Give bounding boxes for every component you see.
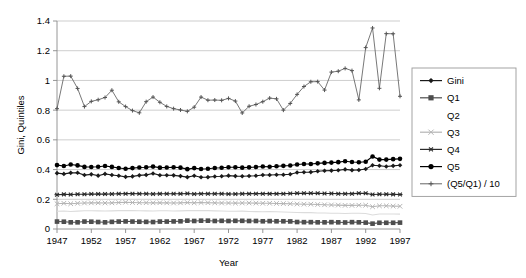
data-point-marker	[336, 220, 341, 225]
data-point-marker	[62, 172, 67, 177]
data-point-marker	[212, 174, 217, 179]
legend: GiniQ1Q2Q3Q4Q5(Q5/Q1) / 10	[412, 68, 516, 196]
data-point-marker	[103, 172, 108, 177]
data-point-marker	[151, 164, 156, 169]
data-point-marker	[274, 219, 279, 224]
data-point-marker	[123, 175, 128, 180]
data-point-marker	[398, 163, 403, 168]
x-tick-label: 1967	[184, 235, 205, 246]
legend-item-q5-q1-10[interactable]: (Q5/Q1) / 10	[413, 175, 515, 192]
x-axis-title: Year	[219, 257, 238, 268]
data-point-marker	[116, 219, 121, 224]
legend-item-label: Q4	[447, 144, 460, 155]
data-point-marker	[68, 162, 73, 167]
data-point-marker	[219, 174, 224, 179]
legend-item-q3[interactable]: Q3	[413, 124, 515, 141]
data-point-marker	[377, 163, 382, 168]
legend-item-label: Q1	[447, 92, 460, 103]
data-point-marker	[144, 173, 149, 178]
data-point-marker	[254, 219, 259, 224]
data-point-marker	[110, 220, 115, 225]
data-point-marker	[377, 220, 382, 225]
data-point-marker	[254, 174, 259, 179]
series-q3	[55, 200, 403, 209]
data-point-marker	[329, 160, 334, 165]
chart-figure: 00.20.40.60.811.21.4 1947195219571962196…	[0, 0, 526, 278]
data-point-marker	[233, 165, 238, 170]
data-point-marker	[206, 166, 211, 171]
data-point-marker	[123, 166, 128, 171]
data-point-marker	[357, 220, 362, 225]
data-point-marker	[144, 220, 149, 225]
data-point-marker	[315, 220, 320, 225]
data-point-marker	[103, 220, 108, 225]
series-q5-q1-10	[55, 26, 402, 115]
data-point-marker	[267, 219, 272, 224]
x-tick-label: 1972	[218, 235, 239, 246]
data-point-marker	[391, 220, 396, 225]
data-point-marker	[329, 168, 334, 173]
legend-item-gini[interactable]: Gini	[413, 72, 515, 89]
data-point-marker	[55, 163, 60, 168]
series-q5	[55, 154, 403, 171]
data-point-marker	[226, 173, 231, 178]
data-point-marker	[350, 160, 355, 165]
series-q1	[55, 218, 403, 226]
data-point-marker	[123, 219, 128, 224]
data-point-marker	[295, 162, 300, 167]
data-point-marker	[267, 173, 272, 178]
x-tick-labels: 1947195219571962196719721977198219871992…	[46, 235, 410, 246]
data-point-marker	[212, 219, 217, 224]
data-point-marker	[370, 163, 375, 168]
data-point-marker	[322, 161, 327, 166]
data-point-marker	[75, 163, 80, 168]
data-point-marker	[384, 220, 389, 225]
y-tick-label: 0.4	[37, 164, 50, 175]
y-tick-labels: 00.20.40.60.811.21.4	[37, 15, 50, 234]
y-tick-label: 1.4	[37, 15, 50, 26]
data-point-marker	[158, 173, 163, 178]
series-line	[57, 210, 400, 215]
data-point-marker	[384, 157, 389, 162]
data-point-marker	[199, 218, 204, 223]
data-point-marker	[322, 220, 327, 225]
data-point-marker	[206, 175, 211, 180]
legend-item-q5[interactable]: Q5	[413, 158, 515, 175]
x-tick-label: 1997	[389, 235, 410, 246]
data-point-marker	[350, 168, 355, 173]
data-point-marker	[336, 168, 341, 173]
data-point-marker	[158, 165, 163, 170]
legend-item-label: Q3	[447, 127, 460, 138]
legend-item-label: Gini	[447, 75, 464, 86]
data-point-marker	[192, 166, 197, 171]
data-point-marker	[164, 219, 169, 224]
legend-item-q2[interactable]: Q2	[413, 106, 515, 123]
x-tick-label: 1962	[149, 235, 170, 246]
legend-item-q1[interactable]: Q1	[413, 89, 515, 106]
data-point-marker	[391, 164, 396, 169]
data-point-marker	[343, 220, 348, 225]
data-point-marker	[116, 166, 121, 171]
legend-item-q4[interactable]: Q4	[413, 141, 515, 158]
data-point-marker	[343, 159, 348, 164]
data-point-marker	[226, 219, 231, 224]
data-point-marker	[158, 219, 163, 224]
legend-item-hit[interactable]	[413, 106, 515, 123]
data-point-marker	[302, 220, 307, 225]
data-point-marker	[267, 164, 272, 169]
data-point-marker	[103, 164, 108, 169]
data-point-marker	[428, 95, 433, 100]
data-point-marker	[178, 219, 183, 224]
data-point-marker	[212, 166, 217, 171]
data-point-marker	[336, 160, 341, 165]
data-point-marker	[96, 220, 101, 225]
data-point-marker	[226, 165, 231, 170]
data-point-marker	[89, 219, 94, 224]
legend-item-label: (Q5/Q1) / 10	[447, 178, 500, 189]
data-point-marker	[55, 171, 60, 176]
data-point-marker	[329, 220, 334, 225]
data-point-marker	[89, 172, 94, 177]
data-point-marker	[261, 164, 266, 169]
data-point-marker	[281, 219, 286, 224]
x-tick-label: 1977	[252, 235, 273, 246]
